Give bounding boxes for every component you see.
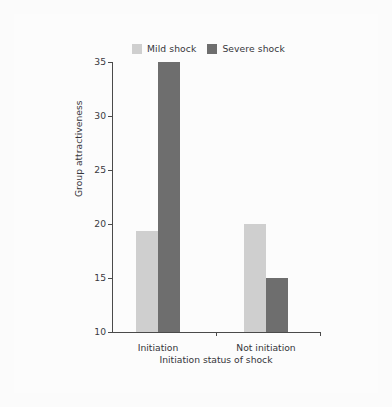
- y-tick-mark-10: [108, 332, 112, 333]
- y-tick-35: 35: [112, 62, 113, 63]
- bar-chart-figure: Mild shock Severe shock 10 15 20 25: [0, 0, 392, 407]
- x-category-label-not-initiation: Not initiation: [236, 343, 295, 352]
- x-tick-end: [320, 332, 321, 336]
- y-tick-label-15: 15: [94, 273, 106, 282]
- x-axis-title: Initiation status of shock: [112, 355, 320, 364]
- y-tick-label-25: 25: [94, 165, 106, 174]
- bar-initiation-mild: [136, 231, 158, 332]
- y-tick-10: 10: [112, 332, 113, 333]
- legend-swatch-severe-icon: [207, 44, 217, 54]
- legend-entry-mild: Mild shock: [132, 44, 196, 54]
- y-tick-label-30: 30: [94, 111, 106, 120]
- chart-legend: Mild shock Severe shock: [132, 42, 285, 56]
- legend-label-severe: Severe shock: [222, 44, 285, 53]
- y-tick-25: 25: [112, 170, 113, 171]
- y-tick-20: 20: [112, 224, 113, 225]
- bar-initiation-severe: [158, 62, 180, 332]
- y-tick-label-35: 35: [94, 57, 106, 66]
- y-axis-title: Group attractiveness: [74, 101, 83, 197]
- bar-not-initiation-mild: [244, 224, 266, 332]
- x-tick-middle: [216, 332, 217, 336]
- y-tick-mark-25: [108, 170, 112, 171]
- legend-swatch-mild-icon: [132, 44, 142, 54]
- legend-entry-severe: Severe shock: [207, 44, 285, 54]
- y-tick-mark-15: [108, 278, 112, 279]
- y-tick-30: 30: [112, 116, 113, 117]
- bar-not-initiation-severe: [266, 278, 288, 332]
- y-tick-label-20: 20: [94, 219, 106, 228]
- legend-label-mild: Mild shock: [147, 44, 196, 53]
- x-category-label-initiation: Initiation: [138, 343, 178, 352]
- y-tick-mark-30: [108, 116, 112, 117]
- y-tick-label-10: 10: [94, 327, 106, 336]
- y-tick-15: 15: [112, 278, 113, 279]
- y-tick-mark-35: [108, 62, 112, 63]
- y-tick-mark-20: [108, 224, 112, 225]
- plot-area: 10 15 20 25 30 35 Init: [112, 62, 320, 332]
- y-axis-line: [112, 62, 113, 333]
